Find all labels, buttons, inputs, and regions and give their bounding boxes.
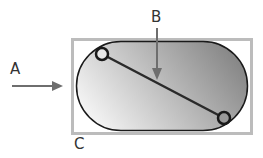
- label-b: B: [151, 10, 161, 25]
- label-a: A: [10, 62, 20, 77]
- label-c: C: [74, 137, 84, 152]
- pivot-top-left: [96, 48, 108, 60]
- arrow-a-head: [52, 81, 63, 91]
- pivot-bottom-right: [218, 112, 230, 124]
- diagram-canvas: [0, 0, 263, 158]
